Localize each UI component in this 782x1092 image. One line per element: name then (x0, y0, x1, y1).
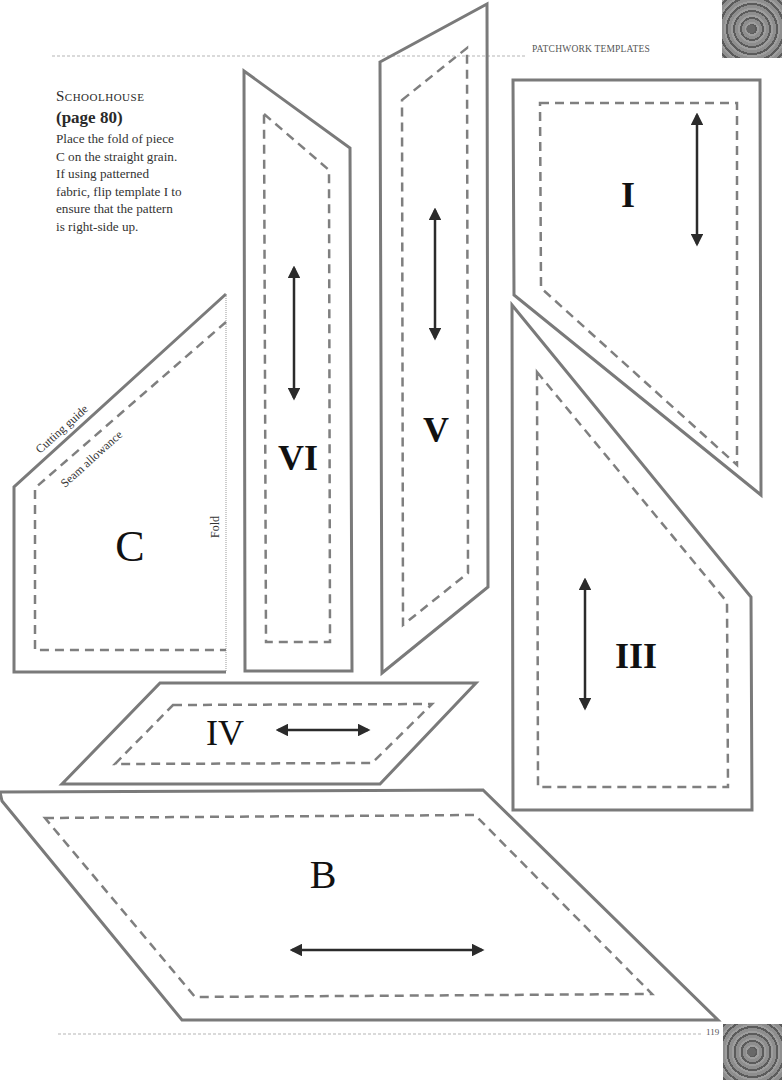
piece-b-seam-line (45, 815, 652, 997)
piece-c: Cutting guide Seam allowance Fold C (14, 294, 226, 672)
piece-iv-seam-line (115, 704, 432, 764)
page-number: 119 (706, 1027, 719, 1037)
piece-i: I (513, 80, 761, 495)
piece-v: V (380, 4, 488, 673)
piece-iv-cut-line (62, 683, 476, 784)
piece-iii-seam-line (537, 372, 728, 787)
piece-iv: IV (62, 683, 476, 784)
piece-c-cut-line (14, 294, 226, 672)
piece-vi-cut-line (244, 71, 352, 671)
piece-i-label: I (621, 175, 635, 215)
piece-iii-cut-line (512, 305, 752, 810)
section-header: PATCHWORK TEMPLATES (532, 44, 650, 54)
piece-vi-label: VI (278, 438, 318, 478)
fold-label: Fold (208, 516, 222, 538)
piece-b: B (0, 790, 718, 1020)
piece-b-cut-line (0, 790, 718, 1020)
piece-b-label: B (310, 852, 337, 897)
piece-v-cut-line (380, 4, 488, 673)
piece-i-cut-line (513, 80, 761, 495)
intro-block: Schoolhouse (page 80) Place the fold of … (56, 88, 236, 236)
piece-iii: III (512, 305, 752, 810)
piece-vi: VI (244, 71, 352, 671)
project-title: Schoolhouse (56, 88, 236, 105)
cutting-guide-label: Cutting guide (33, 402, 91, 456)
piece-v-label: V (423, 410, 449, 450)
piece-iv-label: IV (206, 713, 244, 753)
instructions: Place the fold of piece C on the straigh… (56, 130, 236, 236)
page-reference: (page 80) (56, 108, 236, 128)
piece-c-label: C (115, 522, 144, 571)
piece-iii-label: III (615, 636, 657, 676)
piece-vi-seam-line (264, 114, 330, 642)
